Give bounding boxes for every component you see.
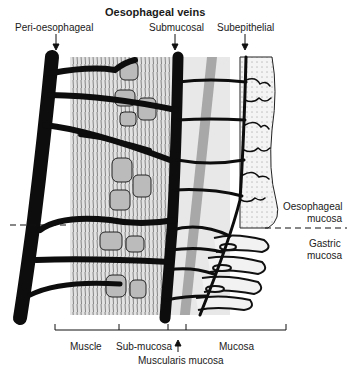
layer-bracket xyxy=(55,324,286,330)
label-gastric-mucosa-2: mucosa xyxy=(307,250,342,261)
label-gastric-mucosa-1: Gastric xyxy=(309,238,341,249)
label-muscle: Muscle xyxy=(70,341,102,352)
label-peri-oesophageal: Peri-oesophageal xyxy=(15,22,93,33)
label-mucosa: Mucosa xyxy=(219,341,254,352)
label-muscularis-mucosa: Muscularis mucosa xyxy=(138,355,224,366)
vein-arrows xyxy=(53,34,248,50)
oesophageal-veins-illustration xyxy=(0,0,347,373)
label-oesophageal-mucosa-1: Oesophageal xyxy=(283,201,343,212)
label-oesophageal-mucosa-2: mucosa xyxy=(307,213,342,224)
label-subepithelial: Subepithelial xyxy=(217,22,274,33)
label-sub-mucosa: Sub-mucosa xyxy=(116,341,172,352)
diagram-title: Oesophageal veins xyxy=(105,7,205,18)
label-submucosal: Submucosal xyxy=(149,22,204,33)
muscularis-arrow xyxy=(175,340,181,352)
